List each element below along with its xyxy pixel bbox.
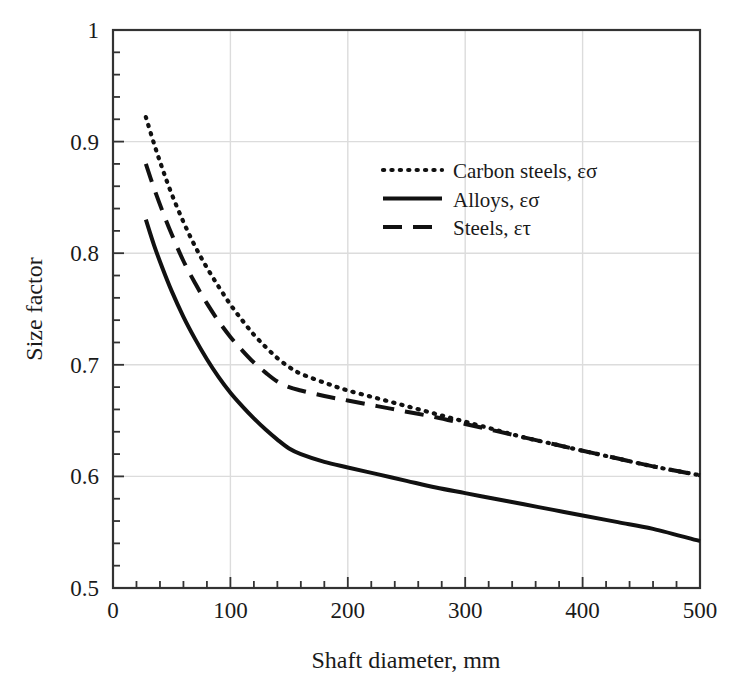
x-tick-label: 0	[107, 598, 119, 623]
y-tick-label: 0.5	[70, 576, 99, 601]
x-tick-label: 400	[565, 598, 600, 623]
y-tick-label: 1	[88, 18, 100, 43]
size-factor-chart: 01002003004005000.50.60.70.80.91 Shaft d…	[0, 0, 751, 691]
x-tick-label: 300	[448, 598, 483, 623]
legend-label: Alloys, εσ	[453, 188, 540, 212]
legend-label: Carbon steels, εσ	[453, 159, 597, 183]
y-tick-label: 0.9	[70, 130, 99, 155]
x-axis-title: Shaft diameter, mm	[312, 647, 501, 673]
y-axis-title: Size factor	[21, 257, 47, 360]
x-tick-label: 500	[683, 598, 718, 623]
x-tick-label: 200	[331, 598, 366, 623]
y-tick-label: 0.7	[70, 353, 99, 378]
y-tick-label: 0.8	[70, 241, 99, 266]
y-tick-label: 0.6	[70, 464, 99, 489]
legend-label: Steels, ετ	[453, 216, 531, 240]
figure-container: 01002003004005000.50.60.70.80.91 Shaft d…	[0, 0, 751, 691]
x-tick-label: 100	[213, 598, 248, 623]
